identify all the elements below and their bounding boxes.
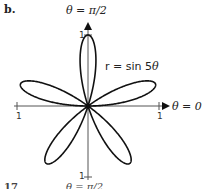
polar-plot <box>0 0 202 189</box>
origin-dot <box>86 104 90 108</box>
